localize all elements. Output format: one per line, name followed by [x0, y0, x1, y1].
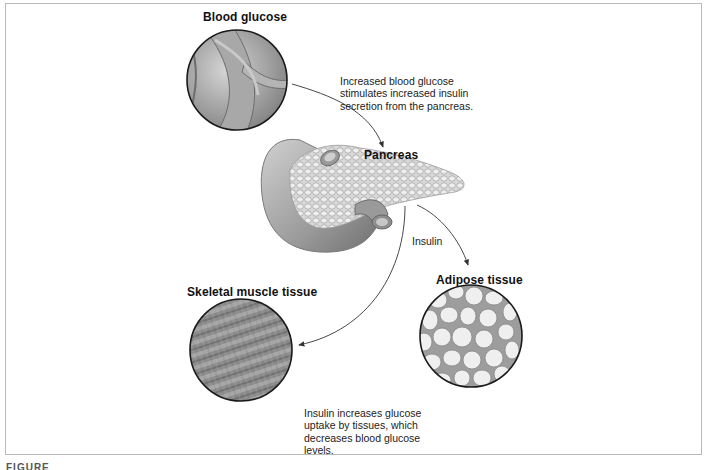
blood-vessel-illustration	[185, 30, 292, 135]
diagram-artwork	[0, 0, 708, 470]
annotation-stimulus: Increased blood glucose stimulates incre…	[340, 75, 473, 112]
label-adipose: Adipose tissue	[436, 273, 523, 287]
label-pancreas: Pancreas	[364, 148, 418, 162]
annotation-effect: Insulin increases glucose uptake by tiss…	[304, 407, 421, 456]
label-blood-glucose: Blood glucose	[203, 10, 287, 24]
label-insulin: Insulin	[412, 235, 442, 247]
figure-label: FIGURE	[6, 462, 50, 470]
muscle-tissue-illustration	[190, 299, 292, 401]
label-skeletal-muscle: Skeletal muscle tissue	[187, 285, 317, 299]
adipose-tissue-illustration	[416, 285, 522, 387]
